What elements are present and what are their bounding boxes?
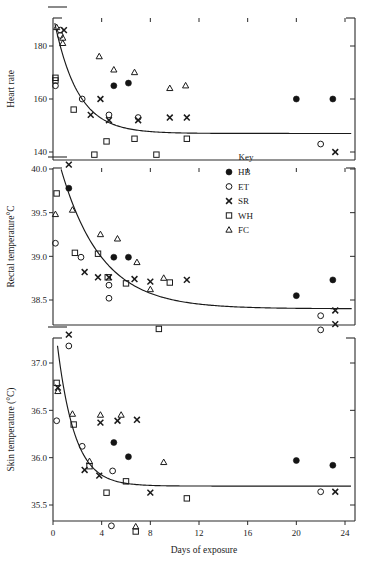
x-tick-label: 4 <box>99 528 104 538</box>
data-point-open-square <box>71 107 76 112</box>
data-point-open-square <box>92 152 97 157</box>
series-HB <box>66 185 336 298</box>
data-point-open-square <box>132 136 137 141</box>
data-point-filled-circle <box>293 458 299 464</box>
series-WH <box>54 326 190 534</box>
x-tick-label: 0 <box>51 528 56 538</box>
series-ET <box>54 327 324 529</box>
data-point-open-square <box>226 213 231 218</box>
y-tick-label: 39.0 <box>31 252 47 262</box>
data-point-filled-circle <box>66 185 72 191</box>
panel-top: 140160180 <box>34 7 356 160</box>
legend-label-HB: HB <box>238 167 251 177</box>
data-point-open-triangle <box>183 82 189 88</box>
data-point-open-circle <box>318 489 324 495</box>
y-axis-title: Heart rate <box>6 70 16 108</box>
data-point-open-square <box>54 191 59 196</box>
data-point-open-square <box>184 136 189 141</box>
x-tick-label: 12 <box>195 528 204 538</box>
data-point-open-triangle <box>226 227 232 233</box>
data-point-filled-circle <box>111 83 117 89</box>
y-tick-label: 180 <box>34 41 48 51</box>
data-point-filled-circle <box>330 277 336 283</box>
data-point-open-square <box>167 280 172 285</box>
y-tick-label: 35.5 <box>31 500 47 510</box>
data-point-filled-circle <box>125 80 131 86</box>
data-point-filled-circle <box>330 96 336 102</box>
data-point-open-circle <box>318 327 324 333</box>
data-point-open-circle <box>106 295 112 301</box>
y-tick-label: 36.0 <box>31 453 47 463</box>
data-point-open-triangle <box>97 412 103 418</box>
data-point-filled-circle <box>111 440 117 446</box>
y-axis-title: Skin temperature (°C) <box>6 388 17 472</box>
data-point-open-square <box>54 380 59 385</box>
data-point-open-triangle <box>161 459 167 465</box>
data-point-filled-circle <box>293 293 299 299</box>
axis-frame <box>48 327 355 521</box>
data-point-open-triangle <box>114 236 120 242</box>
series-FC <box>55 388 167 529</box>
data-point-open-square <box>184 496 189 501</box>
series-HB <box>111 80 336 102</box>
data-point-open-triangle <box>54 24 60 30</box>
data-points-middle <box>52 162 338 406</box>
data-point-filled-circle <box>330 462 336 468</box>
x-tick-label: 20 <box>292 528 302 538</box>
panel-bottom: 35.536.036.537.004812162024Days of expos… <box>31 321 355 555</box>
data-point-open-triangle <box>147 286 153 292</box>
y-tick-label: 39.5 <box>31 208 47 218</box>
data-point-open-circle <box>318 141 324 147</box>
data-point-open-triangle <box>131 69 137 75</box>
data-point-open-triangle <box>134 259 140 265</box>
y-tick-label: 37.0 <box>31 358 47 368</box>
data-point-open-square <box>104 490 109 495</box>
data-points-bottom <box>54 321 338 534</box>
data-point-open-circle <box>54 418 60 424</box>
data-point-open-triangle <box>111 67 117 73</box>
fit-curve <box>55 23 351 133</box>
data-point-filled-circle <box>111 254 117 260</box>
legend-label-ET: ET <box>238 182 249 192</box>
legend-label-WH: WH <box>238 211 253 221</box>
data-point-open-triangle <box>167 85 173 91</box>
data-point-open-circle <box>110 468 116 474</box>
legend-label-SR: SR <box>238 196 249 206</box>
y-tick-label: 40.0 <box>31 164 47 174</box>
data-point-open-triangle <box>161 275 167 281</box>
x-tick-label: 16 <box>243 528 253 538</box>
data-point-open-square <box>154 152 159 157</box>
y-tick-label: 140 <box>34 147 48 157</box>
data-point-open-circle <box>226 184 232 190</box>
panel-middle: 38.539.039.540.0 <box>31 157 355 406</box>
y-tick-label: 36.5 <box>31 406 47 416</box>
data-point-open-circle <box>78 254 84 260</box>
data-point-open-circle <box>66 343 72 349</box>
data-point-open-square <box>156 326 161 331</box>
data-point-open-triangle <box>118 412 124 418</box>
x-axis-title: Days of exposure <box>171 545 237 555</box>
series-WH <box>54 191 173 406</box>
data-points-top <box>53 24 339 157</box>
data-point-open-circle <box>79 443 85 449</box>
data-point-open-triangle <box>97 231 103 237</box>
series-FC <box>54 24 189 90</box>
data-point-open-square <box>133 529 138 534</box>
legend-title: Key <box>239 152 254 162</box>
data-point-open-circle <box>109 523 115 529</box>
data-point-open-triangle <box>60 40 66 46</box>
axis-frame <box>48 7 355 160</box>
data-point-open-square <box>72 250 77 255</box>
series-SR <box>61 27 338 155</box>
data-point-open-circle <box>106 112 112 118</box>
legend-group: KeyHBETSRWHFC <box>226 152 254 235</box>
series-HB <box>111 440 336 469</box>
data-point-filled-circle <box>125 454 131 460</box>
fit-curve <box>58 346 351 486</box>
data-point-open-triangle <box>133 523 139 529</box>
data-point-filled-circle <box>293 96 299 102</box>
data-point-open-square <box>104 139 109 144</box>
data-point-open-circle <box>106 282 112 288</box>
three-panel-scatter-chart: 140160180Heart rate38.539.039.540.0Recta… <box>0 0 373 564</box>
data-point-filled-circle <box>125 254 131 260</box>
